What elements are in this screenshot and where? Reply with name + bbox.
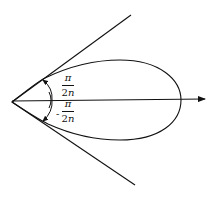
denominator-variable: n xyxy=(68,87,74,98)
angle-arc xyxy=(49,92,51,108)
upper-angle-numerator: π xyxy=(61,73,75,85)
lower-angle-denominator: 2n xyxy=(61,112,75,124)
lower-angle-sign: - xyxy=(56,108,59,119)
lower-angle-label: π 2n xyxy=(61,99,75,124)
upper-angle-denominator: 2n xyxy=(61,86,75,98)
lower-angle-numerator: π xyxy=(61,99,75,111)
lobe-diagram xyxy=(0,0,214,200)
axis-arrow xyxy=(12,99,205,101)
denominator-variable: n xyxy=(68,113,74,124)
upper-angle-label: π 2n xyxy=(61,73,75,98)
